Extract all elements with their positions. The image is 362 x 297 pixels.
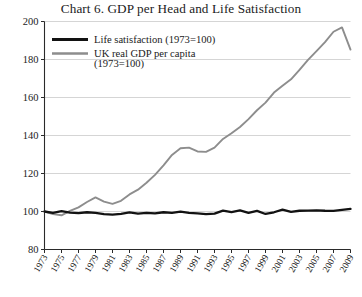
x-tick-label: 2001 [270,253,288,274]
x-axis-ticks: 1973197519771979198119831985198719891991… [32,250,356,275]
x-tick-label: 1975 [49,253,67,274]
chart-title: Chart 6. GDP per Head and Life Satisfact… [0,1,362,17]
x-tick-label: 1973 [32,253,50,274]
x-tick-label: 1985 [134,253,152,274]
x-tick-label: 1981 [100,253,118,274]
x-tick-label: 2005 [304,253,322,274]
y-tick-label: 180 [23,54,39,65]
gridlines [45,22,351,212]
chart-legend: Life satisfaction (1973=100) UK real GDP… [52,34,216,69]
y-tick-label: 160 [23,92,39,103]
x-tick-label: 1999 [253,253,271,274]
x-tick-label: 1977 [66,253,84,274]
x-tick-label: 1995 [219,253,237,274]
y-tick-label: 80 [28,244,39,255]
x-tick-label: 1993 [202,253,220,274]
x-tick-label: 2009 [338,253,356,274]
x-tick-label: 1983 [117,253,135,274]
y-tick-label: 100 [23,206,39,217]
y-tick-label: 120 [23,168,39,179]
x-tick-label: 1991 [185,253,203,274]
legend-label-life-satisfaction: Life satisfaction (1973=100) [94,34,216,46]
chart-figure: Chart 6. GDP per Head and Life Satisfact… [0,0,362,297]
x-tick-label: 1979 [83,253,101,274]
x-tick-label: 1989 [168,253,186,274]
legend-label-uk-real-gdp-line2: (1973=100) [94,58,145,70]
y-tick-label: 200 [23,16,39,27]
y-tick-label: 140 [23,130,39,141]
gdp-life-satisfaction-line-chart: 80100120140160180200 1973197519771979198… [0,0,362,297]
x-tick-label: 1997 [236,253,254,274]
y-axis-ticks: 80100120140160180200 [23,16,45,255]
x-tick-label: 1987 [151,253,169,274]
x-tick-label: 2003 [287,253,305,274]
x-tick-label: 2007 [321,253,339,274]
series-line-uk-real-gdp-per-capita [45,27,351,215]
